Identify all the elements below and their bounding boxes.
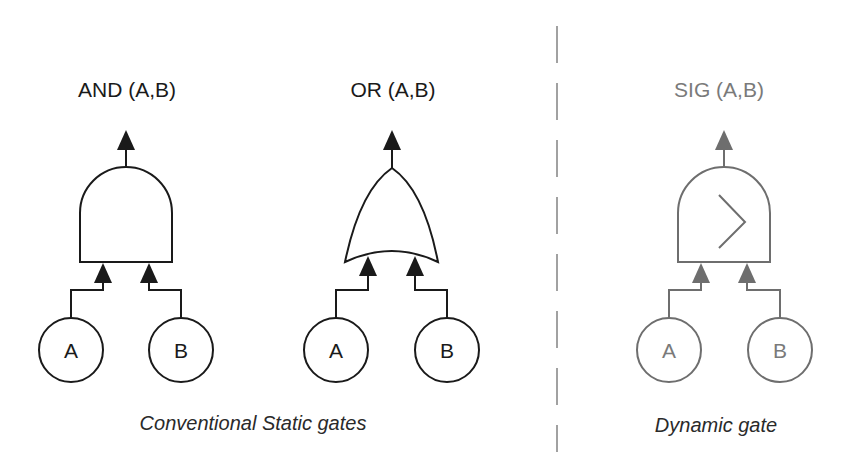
and-input-b-connector xyxy=(149,280,181,318)
sig-gate-title: SIG (A,B) xyxy=(674,78,764,101)
and-input-a-connector xyxy=(71,280,103,318)
or-input-a-label: A xyxy=(329,339,343,362)
sig-input-a-label: A xyxy=(662,339,676,362)
sig-input-a-connector xyxy=(669,280,701,318)
and-input-b-arrow-icon xyxy=(140,263,158,283)
sig-gate-shape xyxy=(678,167,770,262)
dynamic-gate-caption: Dynamic gate xyxy=(655,414,777,436)
or-gate-title: OR (A,B) xyxy=(350,78,435,101)
and-input-a-label: A xyxy=(64,339,78,362)
or-input-b-arrow-icon xyxy=(406,256,424,276)
sig-input-a-arrow-icon xyxy=(692,263,710,283)
and-input-a-arrow-icon xyxy=(94,263,112,283)
or-gate-group: OR (A,B) A B xyxy=(304,78,479,382)
or-input-a-arrow-icon xyxy=(359,256,377,276)
fault-tree-gates-diagram: AND (A,B) A B OR (A,B) A B Conventional … xyxy=(0,0,844,469)
sig-gate-group: SIG (A,B) A B xyxy=(637,78,812,382)
sig-output-arrow-icon xyxy=(715,130,733,150)
and-gate-title: AND (A,B) xyxy=(78,78,176,101)
sig-input-b-connector xyxy=(747,280,780,318)
and-output-arrow-icon xyxy=(117,130,135,150)
and-gate-group: AND (A,B) A B xyxy=(39,78,213,382)
sig-input-b-arrow-icon xyxy=(738,263,756,283)
or-input-a-connector xyxy=(336,275,368,318)
or-output-arrow-icon xyxy=(383,130,401,150)
static-gates-caption: Conventional Static gates xyxy=(140,412,367,434)
or-input-b-label: B xyxy=(440,339,454,362)
and-gate-shape xyxy=(80,167,172,262)
or-input-b-connector xyxy=(415,275,447,318)
and-input-b-label: B xyxy=(174,339,188,362)
or-gate-shape xyxy=(345,168,438,262)
sig-input-b-label: B xyxy=(773,339,787,362)
